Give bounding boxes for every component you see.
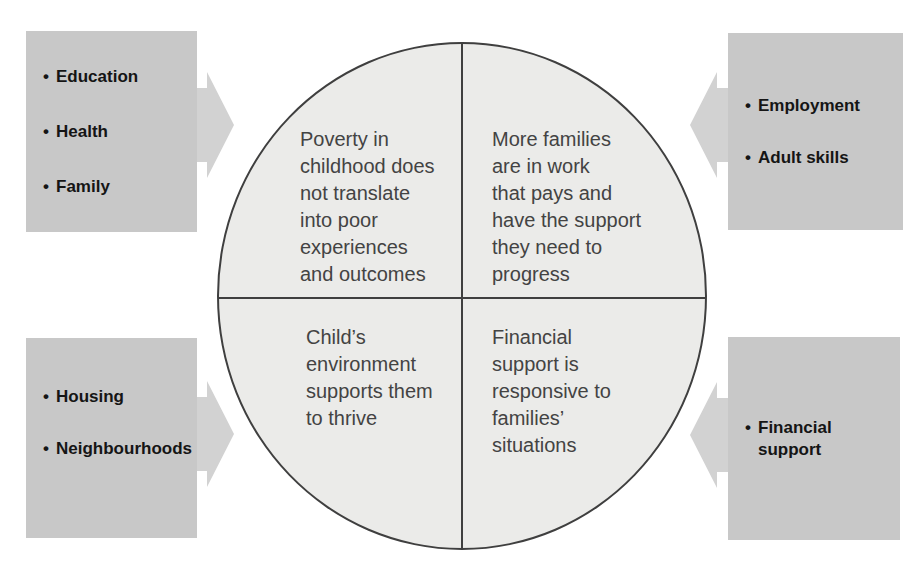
text-line: not translate: [300, 180, 470, 207]
factor-box-bottom-right: • Financial support: [728, 337, 900, 540]
factor-label: Housing: [56, 386, 124, 408]
text-line: Financial: [492, 324, 662, 351]
quadrant-text-top-left: Poverty in childhood does not translate …: [300, 126, 470, 288]
text-line: More families: [492, 126, 662, 153]
list-item: • Housing: [43, 386, 193, 408]
quadrant-text-top-right: More families are in work that pays and …: [492, 126, 662, 288]
list-item: • Education: [43, 66, 193, 88]
text-line: and outcomes: [300, 261, 470, 288]
list-item: • Employment: [745, 95, 899, 117]
bullet-icon: •: [43, 176, 56, 198]
bullet-icon: •: [43, 386, 56, 408]
factor-label: Family: [56, 176, 110, 198]
factor-label: Education: [56, 66, 138, 88]
text-line: into poor: [300, 207, 470, 234]
bullet-icon: •: [43, 438, 56, 460]
text-line: Child’s: [306, 324, 476, 351]
list-item: • Health: [43, 121, 193, 143]
text-line: Poverty in: [300, 126, 470, 153]
text-line: supports them: [306, 378, 476, 405]
bullet-icon: •: [745, 417, 758, 439]
diagram-canvas: • Education • Health • Family • Housing …: [0, 0, 921, 570]
factor-label: Financial support: [758, 417, 848, 461]
bullet-icon: •: [43, 66, 56, 88]
bullet-icon: •: [745, 95, 758, 117]
text-line: progress: [492, 261, 662, 288]
text-line: support is: [492, 351, 662, 378]
factor-box-bottom-left: • Housing • Neighbourhoods: [26, 338, 197, 538]
arrow-right-icon: [193, 381, 234, 487]
text-line: to thrive: [306, 405, 476, 432]
text-line: environment: [306, 351, 476, 378]
factor-label: Employment: [758, 95, 860, 117]
quadrant-text-bottom-left: Child’s environment supports them to thr…: [306, 324, 476, 432]
bullet-icon: •: [745, 147, 758, 169]
arrow-left-icon: [690, 382, 731, 488]
list-item: • Adult skills: [745, 147, 899, 169]
list-item: • Neighbourhoods: [43, 438, 193, 460]
factor-label: Adult skills: [758, 147, 849, 169]
text-line: are in work: [492, 153, 662, 180]
list-item: • Financial support: [745, 417, 896, 461]
text-line: situations: [492, 432, 662, 459]
quadrant-text-bottom-right: Financial support is responsive to famil…: [492, 324, 662, 459]
bullet-icon: •: [43, 121, 56, 143]
text-line: have the support: [492, 207, 662, 234]
horizontal-divider: [219, 297, 705, 299]
text-line: families’: [492, 405, 662, 432]
text-line: childhood does: [300, 153, 470, 180]
factor-label: Health: [56, 121, 108, 143]
list-item: • Family: [43, 176, 193, 198]
arrow-right-icon: [193, 72, 234, 178]
text-line: they need to: [492, 234, 662, 261]
factor-label: Neighbourhoods: [56, 438, 192, 460]
text-line: experiences: [300, 234, 470, 261]
factor-box-top-left: • Education • Health • Family: [26, 31, 197, 232]
text-line: that pays and: [492, 180, 662, 207]
text-line: responsive to: [492, 378, 662, 405]
vertical-divider: [461, 44, 463, 548]
arrow-left-icon: [690, 72, 731, 178]
factor-box-top-right: • Employment • Adult skills: [728, 33, 903, 230]
